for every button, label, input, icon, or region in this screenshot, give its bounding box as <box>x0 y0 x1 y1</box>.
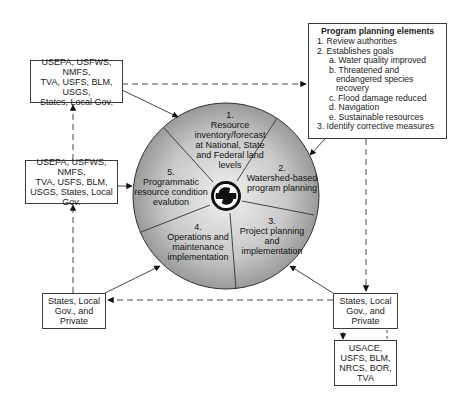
box-line: NRCS, BOR, <box>339 363 392 373</box>
pp-item: 3. Identify corrective measures <box>313 122 442 131</box>
box-line: Private <box>339 316 391 326</box>
segment-4-operations-maintenance: 4. Operations and maintenance implementa… <box>163 222 233 262</box>
cycle-arrows-icon <box>211 181 241 211</box>
segment-2-watershed-planning: 2. Watershed-based program planning <box>244 163 320 193</box>
states-box-bottom-left: States, Local Gov., and Private <box>42 293 106 329</box>
box-line: USEPA, USFWS, NMFS, <box>28 157 115 177</box>
agencies-box-top-left: USEPA, USFWS, NMFS, TVA, USFS, BLM, USGS… <box>30 60 123 103</box>
program-planning-box: Program planning elements 1. Review auth… <box>308 23 447 139</box>
segment-line: evalution <box>131 197 211 207</box>
segment-number: 4. <box>163 222 233 232</box>
segment-3-project-planning: 3. Project planning and implementation <box>236 216 308 256</box>
segment-line: and Federal land <box>185 150 275 160</box>
box-line: USGS, States, Local Gov. <box>28 187 115 207</box>
pp-subitem: b. Threatened and endangered species rec… <box>320 66 442 94</box>
box-line: USACE, <box>339 343 392 353</box>
segment-number: 2. <box>244 163 320 173</box>
segment-number: 5. <box>131 167 211 177</box>
box-line: USFS, BLM, <box>339 353 392 363</box>
segment-line: inventory/forecast <box>185 130 275 140</box>
segment-line: at National, State <box>185 140 275 150</box>
box-line: TVA, USFS, BLM, <box>28 177 115 187</box>
segment-line: Operations and <box>163 232 233 242</box>
agencies-box-mid-left: USEPA, USFWS, NMFS, TVA, USFS, BLM, USGS… <box>25 160 118 204</box>
program-planning-title: Program planning elements <box>313 27 442 36</box>
segment-line: Resource <box>185 120 275 130</box>
federal-agencies-box: USACE, USFS, BLM, NRCS, BOR, TVA <box>334 340 397 386</box>
box-line: TVA <box>339 373 392 383</box>
states-box-bottom-right: States, Local Gov., and Private <box>333 293 398 329</box>
segment-line: and <box>236 236 308 246</box>
box-line: States, Local Gov. <box>33 97 120 107</box>
box-line: TVA, USFS, BLM, USGS, <box>33 77 120 97</box>
box-line: States, Local <box>339 296 391 306</box>
segment-number: 1. <box>185 110 275 120</box>
segment-number: 3. <box>236 216 308 226</box>
segment-5-programmatic-evaluation: 5. Programmatic resource condition evalu… <box>131 167 211 207</box>
box-line: States, Local <box>48 296 100 306</box>
box-line: Gov., and <box>48 306 100 316</box>
segment-line: maintenance <box>163 242 233 252</box>
box-line: Private <box>48 316 100 326</box>
box-line: Gov., and <box>339 306 391 316</box>
segment-line: implementation <box>236 246 308 256</box>
box-line: USEPA, USFWS, NMFS, <box>33 57 120 77</box>
segment-line: program planning <box>244 183 320 193</box>
segment-line: implementation <box>163 252 233 262</box>
segment-line: Watershed-based <box>244 173 320 183</box>
segment-line: Programmatic <box>131 177 211 187</box>
segment-line: resource condition <box>131 187 211 197</box>
segment-line: Project planning <box>236 226 308 236</box>
segment-1-resource-inventory: 1. Resource inventory/forecast at Nation… <box>185 110 275 170</box>
